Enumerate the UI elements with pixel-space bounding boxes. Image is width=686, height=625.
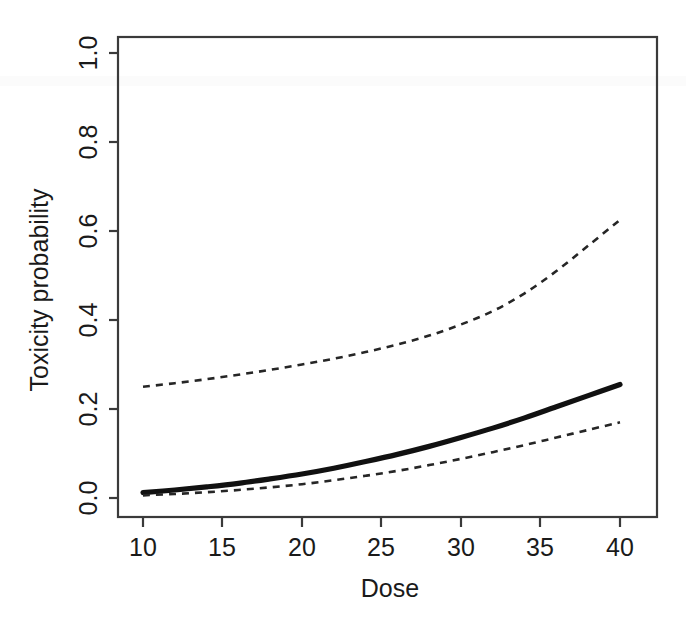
series-posterior-mean (143, 385, 620, 493)
y-tick-label-0.6: 0.6 (74, 214, 102, 249)
toxicity-dose-response-chart: 1.0 0.8 0.6 0.4 0.2 0.0 10 15 20 25 30 3… (0, 0, 686, 625)
x-axis-title: Dose (361, 574, 419, 602)
y-axis-tick-labels: 1.0 0.8 0.6 0.4 0.2 0.0 (74, 36, 102, 516)
x-tick-label-35: 35 (526, 533, 554, 561)
y-axis-ticks (109, 53, 118, 498)
series-upper-credible-limit (143, 220, 620, 387)
y-tick-label-1.0: 1.0 (74, 36, 102, 71)
y-tick-label-0.4: 0.4 (74, 303, 102, 338)
plot-box-frame (118, 37, 657, 517)
x-tick-label-25: 25 (367, 533, 395, 561)
y-tick-label-0.8: 0.8 (74, 125, 102, 160)
scan-artifact-band (0, 76, 686, 86)
data-series-group (143, 220, 620, 495)
x-tick-label-30: 30 (447, 533, 475, 561)
y-tick-label-0.0: 0.0 (74, 481, 102, 516)
x-tick-label-15: 15 (208, 533, 236, 561)
x-tick-label-40: 40 (606, 533, 634, 561)
y-tick-label-0.2: 0.2 (74, 392, 102, 427)
x-axis-ticks (143, 517, 620, 527)
x-axis-tick-labels: 10 15 20 25 30 35 40 (129, 533, 634, 561)
x-tick-label-20: 20 (288, 533, 316, 561)
chart-canvas: 1.0 0.8 0.6 0.4 0.2 0.0 10 15 20 25 30 3… (0, 0, 686, 625)
x-tick-label-10: 10 (129, 533, 157, 561)
y-axis-title: Toxicity probability (25, 188, 53, 391)
